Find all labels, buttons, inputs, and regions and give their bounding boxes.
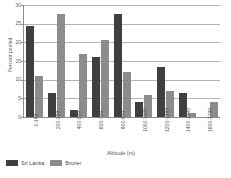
- y-axis-tick-label: 5: [8, 96, 21, 101]
- y-axis-tick-label: 30: [8, 3, 21, 8]
- bar: [79, 54, 87, 117]
- chart-legend: Sri LankaBrunei: [6, 160, 81, 166]
- bar: [101, 40, 109, 117]
- x-axis-tick-label: 200-399: [56, 111, 61, 129]
- bar-groups: [24, 5, 220, 117]
- x-axis-tick-labels: 0-199200-399400-599600-799800-9991000-11…: [23, 117, 219, 151]
- legend-label: Sri Lanka: [21, 160, 44, 166]
- legend-item: Brunei: [50, 160, 81, 166]
- bar-group: [111, 5, 133, 117]
- legend-item: Sri Lanka: [6, 160, 44, 166]
- plot-area: [23, 5, 220, 118]
- bar-group: [24, 5, 46, 117]
- bar-chart: Percent pooled 302520151050 0-199200-399…: [0, 0, 231, 178]
- x-axis-tick-label: 1400-1599: [186, 108, 191, 132]
- legend-swatch: [50, 160, 62, 166]
- x-axis-tick-label: 1000-1199: [143, 108, 148, 132]
- x-axis-tick-cell: 800-999: [110, 117, 132, 151]
- x-axis-tick-label: 1600-1799: [208, 108, 213, 132]
- y-axis-tick-label: 10: [8, 77, 21, 82]
- y-axis-tick-label: 0: [8, 115, 21, 120]
- x-axis-tick-cell: 1200-1399: [154, 117, 176, 151]
- x-axis-tick-label: 400-599: [77, 111, 82, 129]
- x-axis-tick-cell: 400-599: [67, 117, 89, 151]
- bar-group: [155, 5, 177, 117]
- bar: [35, 76, 43, 117]
- y-axis-tick-label: 25: [8, 21, 21, 26]
- bar: [92, 57, 100, 117]
- bar: [57, 14, 65, 117]
- bar: [114, 14, 122, 117]
- bar-group: [198, 5, 220, 117]
- x-axis-tick-label: 600-799: [99, 111, 104, 129]
- bar: [26, 26, 34, 117]
- x-axis-tick-label: 800-999: [121, 111, 126, 129]
- x-axis-tick-label: 1200-1399: [165, 108, 170, 132]
- x-axis-tick-cell: 1000-1199: [132, 117, 154, 151]
- x-axis-tick-cell: 600-799: [88, 117, 110, 151]
- x-axis-title: Altitude (m): [23, 150, 219, 156]
- y-axis-tick-labels: 302520151050: [8, 0, 21, 178]
- y-axis-tick-label: 20: [8, 40, 21, 45]
- bar-group: [176, 5, 198, 117]
- bar-group: [68, 5, 90, 117]
- x-axis-tick-cell: 0-199: [23, 117, 45, 151]
- bar-group: [89, 5, 111, 117]
- bar-group: [133, 5, 155, 117]
- y-axis-tick-label: 15: [8, 59, 21, 64]
- x-axis-tick-cell: 200-399: [45, 117, 67, 151]
- legend-swatch: [6, 160, 18, 166]
- legend-label: Brunei: [65, 160, 81, 166]
- x-axis-tick-cell: 1600-1799: [197, 117, 219, 151]
- bar-group: [46, 5, 68, 117]
- x-axis-tick-cell: 1400-1599: [175, 117, 197, 151]
- x-axis-tick-label: 0-199: [34, 114, 39, 127]
